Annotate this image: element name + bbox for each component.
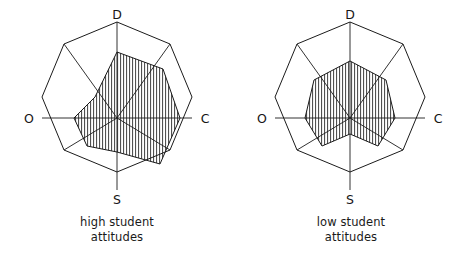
data-polygon-high: [74, 52, 180, 164]
chart-caption-high-line2: attitudes: [0, 230, 234, 245]
chart-panel-low-student-attitudes: D C S O low student attitudes: [234, 0, 468, 273]
axis-label-S-high: S: [113, 192, 121, 207]
axis-label-D-low: D: [345, 7, 355, 22]
axis-label-C-high: C: [201, 111, 210, 126]
axis-label-C-low: C: [434, 111, 443, 126]
axis-label-D-high: D: [112, 7, 122, 22]
chart-caption-low-line1: low student: [234, 215, 468, 230]
chart-caption-high-line1: high student: [0, 215, 234, 230]
radar-chart-high: D C S O: [0, 0, 234, 215]
chart-caption-low-line2: attitudes: [234, 230, 468, 245]
radar-chart-figure: D C S O high student attitudes: [0, 0, 469, 273]
radar-chart-low: D C S O: [234, 0, 468, 215]
chart-caption-low: low student attitudes: [234, 215, 468, 245]
chart-panel-high-student-attitudes: D C S O high student attitudes: [0, 0, 234, 273]
axis-label-S-low: S: [346, 192, 354, 207]
chart-caption-high: high student attitudes: [0, 215, 234, 245]
axis-label-O-high: O: [24, 111, 34, 126]
axis-label-O-low: O: [257, 111, 267, 126]
